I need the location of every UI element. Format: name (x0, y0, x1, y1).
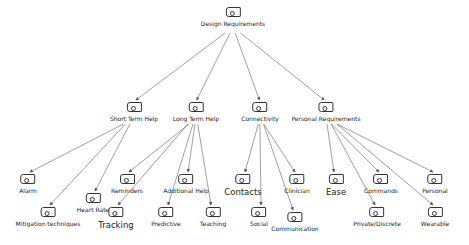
tag-icon (251, 207, 266, 217)
node-additional-help[interactable]: Additional Help (163, 174, 209, 194)
node-connectivity[interactable]: Connectivity (241, 102, 279, 122)
tag-icon (427, 207, 442, 217)
node-private-discrete[interactable]: Private/Discrete (353, 207, 401, 227)
tag-icon (179, 174, 194, 184)
node-label: Wearable (421, 220, 449, 227)
node-design-requirements[interactable]: Design Requirements (201, 7, 265, 27)
tag-icon (289, 174, 304, 184)
connector-arrow (188, 124, 195, 172)
tag-icon (158, 207, 173, 217)
tag-icon (252, 102, 267, 112)
node-commands[interactable]: Commands (364, 174, 398, 194)
connector-arrow (264, 124, 294, 210)
node-predictive[interactable]: Predictive (151, 207, 181, 227)
connector-arrow (327, 124, 334, 172)
connector-arrow (235, 33, 259, 100)
connector-arrow (240, 33, 324, 100)
node-label: Clinician (284, 187, 309, 194)
tag-icon (86, 193, 101, 203)
node-teaching[interactable]: Teaching (200, 207, 226, 227)
node-long-term-help[interactable]: Long Term Help (173, 102, 220, 122)
tag-icon (226, 7, 241, 17)
node-alarm[interactable]: Alarm (19, 174, 37, 194)
node-communication[interactable]: Communication (271, 212, 318, 232)
tag-icon (40, 207, 55, 217)
node-personal[interactable]: Personal (422, 174, 448, 194)
node-personal-requirements[interactable]: Personal Requirements (291, 102, 360, 122)
tag-icon (236, 174, 251, 184)
node-label: Reminders (111, 187, 143, 194)
tag-icon (206, 207, 221, 217)
node-wearable[interactable]: Wearable (421, 207, 449, 227)
node-label: Additional Help (163, 187, 209, 194)
node-label: Ease (326, 187, 346, 197)
tag-icon (369, 207, 384, 217)
node-tracking[interactable]: Tracking (98, 207, 133, 230)
node-label: Connectivity (241, 115, 279, 122)
node-label: Contacts (224, 187, 262, 197)
node-reminders[interactable]: Reminders (111, 174, 143, 194)
node-label: Short Term Help (110, 115, 158, 122)
connector-arrow (197, 33, 230, 100)
node-label: Personal (422, 187, 448, 194)
tag-icon (318, 102, 333, 112)
connector-arrow (332, 124, 380, 172)
connector-arrow (30, 124, 123, 172)
node-clinician[interactable]: Clinician (284, 174, 309, 194)
node-label: Social (250, 220, 268, 227)
connector-arrow (264, 124, 295, 172)
connector-arrow (245, 124, 258, 172)
tag-icon (427, 174, 442, 184)
node-label: Design Requirements (201, 20, 265, 27)
node-mitigation-techniques[interactable]: Mitigation techniques (16, 207, 81, 227)
node-contacts[interactable]: Contacts (224, 174, 262, 197)
node-ease[interactable]: Ease (326, 174, 346, 197)
tag-icon (21, 174, 36, 184)
node-social[interactable]: Social (250, 207, 268, 227)
tag-icon (329, 174, 344, 184)
node-label: Personal Requirements (291, 115, 360, 122)
node-label: Predictive (151, 220, 181, 227)
node-short-term-help[interactable]: Short Term Help (110, 102, 158, 122)
node-label: Alarm (19, 187, 37, 194)
node-label: Teaching (200, 220, 226, 227)
tag-icon (126, 102, 141, 112)
node-label: Mitigation techniques (16, 220, 81, 227)
tag-icon (374, 174, 389, 184)
tag-icon (108, 207, 123, 217)
node-label: Commands (364, 187, 398, 194)
node-label: Tracking (98, 220, 133, 230)
tag-icon (287, 212, 302, 222)
tag-icon (189, 102, 204, 112)
node-label: Communication (271, 225, 318, 232)
node-label: Long Term Help (173, 115, 220, 122)
node-label: Private/Discrete (353, 220, 401, 227)
connector-arrow (136, 33, 225, 100)
tag-icon (120, 174, 135, 184)
